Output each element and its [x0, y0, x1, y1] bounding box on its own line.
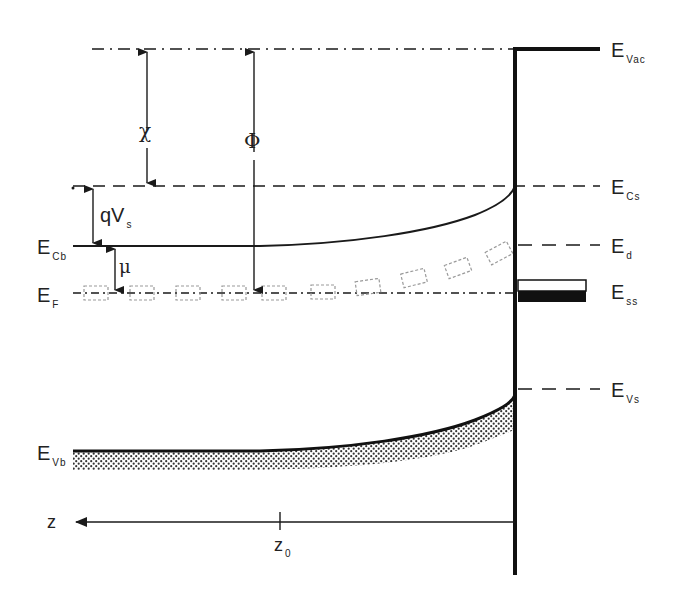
label-e-ss: Ess	[611, 282, 638, 307]
label-e-cb: ECb	[37, 237, 67, 262]
band-diagram: EVac ECs Ed Ess EVs ECb EF EVb χ Φ qVs μ…	[0, 0, 684, 595]
label-z0: z0	[274, 536, 292, 559]
label-e-vb: EVb	[37, 443, 67, 468]
label-e-f: EF	[37, 285, 59, 310]
label-e-vs: EVs	[611, 380, 640, 405]
label-phi: Φ	[244, 131, 260, 151]
label-e-vac: EVac	[611, 40, 646, 65]
label-qvs: qVs	[100, 205, 132, 230]
conduction-band-curve	[73, 186, 515, 246]
label-mu: μ	[119, 258, 131, 276]
label-chi: χ	[139, 121, 151, 141]
surface-states-box	[518, 280, 586, 302]
label-e-d: Ed	[611, 236, 633, 261]
band-diagram-graphics	[0, 0, 684, 595]
donor-states	[84, 241, 513, 300]
label-z-axis: z	[47, 513, 56, 531]
valence-band	[73, 395, 515, 470]
label-e-cs: ECs	[611, 177, 641, 202]
